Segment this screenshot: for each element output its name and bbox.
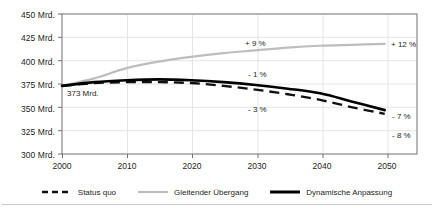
annotation-statusquo-mid: - 3 %	[248, 105, 267, 114]
bottom-divider	[2, 204, 432, 205]
annotation-statusquo-end: - 8 %	[392, 131, 411, 140]
x-axis-ticks	[63, 154, 389, 158]
chart-legend: Status quo Gleitender Übergang Dynamisch…	[0, 184, 434, 200]
plot-area	[0, 0, 434, 210]
legend-swatch-dashed-icon	[42, 188, 72, 196]
annotation-gleitender-mid: + 9 %	[245, 39, 266, 48]
legend-label: Gleitender Übergang	[174, 188, 248, 197]
annotation-start-value: 373 Mrd.	[67, 89, 99, 98]
y-axis-ticks	[58, 14, 62, 154]
annotation-gleitender-end: + 12 %	[391, 40, 416, 49]
annotation-dynamische-end: - 7 %	[392, 112, 411, 121]
legend-item-dynamische-anpassung: Dynamische Anpassung	[270, 188, 392, 197]
legend-label: Dynamische Anpassung	[306, 188, 392, 197]
legend-item-gleitender-uebergang: Gleitender Übergang	[138, 188, 248, 197]
legend-item-status-quo: Status quo	[42, 188, 116, 197]
legend-swatch-bold-line-icon	[270, 188, 300, 196]
chart-figure: 450 Mrd. 425 Mrd. 400 Mrd. 375 Mrd. 350 …	[0, 0, 434, 210]
legend-label: Status quo	[78, 188, 116, 197]
legend-swatch-light-line-icon	[138, 188, 168, 196]
annotation-dynamische-mid: - 1 %	[248, 70, 267, 79]
